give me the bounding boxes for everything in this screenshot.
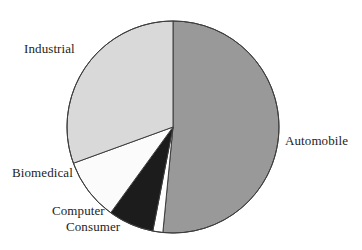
pie-label-consumer: Consumer bbox=[66, 219, 120, 234]
pie-slice-automobile bbox=[163, 21, 279, 233]
pie-chart-figure: Industrial Biomedical Computer Consumer … bbox=[0, 0, 362, 250]
pie-label-automobile: Automobile bbox=[285, 133, 348, 148]
pie-label-computer: Computer bbox=[52, 203, 105, 218]
pie-label-biomedical: Biomedical bbox=[12, 165, 73, 180]
pie-label-industrial: Industrial bbox=[24, 41, 75, 56]
